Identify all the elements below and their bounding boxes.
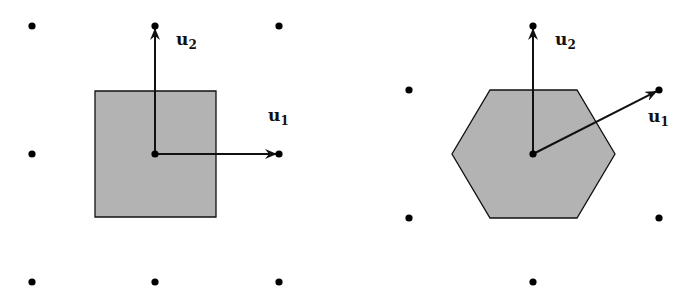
hex-lattice-point xyxy=(529,278,536,285)
square-lattice-point xyxy=(28,22,35,29)
square-lattice-point xyxy=(275,278,282,285)
hex-lattice-point xyxy=(655,214,662,221)
square-lattice-point xyxy=(275,150,282,157)
square-lattice-point xyxy=(275,22,282,29)
lattice-diagram: u1u2 u1u2 xyxy=(0,0,689,287)
square-lattice-point xyxy=(151,22,158,29)
square-vector-u1-label: u1 xyxy=(268,105,289,128)
square-lattice-panel: u1u2 xyxy=(28,22,288,285)
square-lattice-point xyxy=(151,278,158,285)
square-lattice-point xyxy=(28,278,35,285)
square-lattice-point xyxy=(28,150,35,157)
hex-vector-u1-label: u1 xyxy=(648,106,669,129)
hex-lattice-point xyxy=(529,22,536,29)
hex-lattice-point xyxy=(655,86,662,93)
hex-lattice-point xyxy=(529,150,536,157)
hex-lattice-point xyxy=(405,86,412,93)
hex-lattice-point xyxy=(405,214,412,221)
square-lattice-point xyxy=(151,150,158,157)
hex-vector-u2-label: u2 xyxy=(555,29,576,52)
hexagonal-lattice-panel: u1u2 xyxy=(405,22,668,285)
square-vector-u2-label: u2 xyxy=(176,29,197,52)
